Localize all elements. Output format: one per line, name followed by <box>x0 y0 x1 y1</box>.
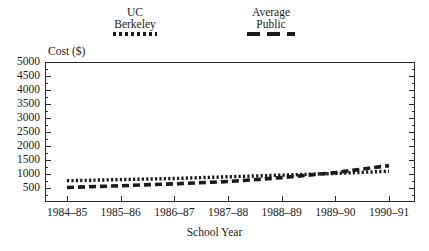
y-axis-minor-tick <box>45 181 48 182</box>
legend-label-average-public-line1: Average <box>228 6 314 18</box>
legend-item-average-public: Average Public <box>228 6 314 36</box>
y-axis-tick <box>45 90 51 91</box>
y-axis-label: 3500 <box>0 98 40 110</box>
legend-label-average-public-line2: Public <box>228 18 314 30</box>
y-axis-label: 3000 <box>0 112 40 124</box>
y-axis-tick <box>45 62 51 63</box>
y-axis-label: 4500 <box>0 70 40 82</box>
x-axis-tick <box>121 196 122 202</box>
y-axis-tick-right <box>409 104 415 105</box>
y-axis-minor-tick <box>45 97 48 98</box>
x-axis-tick <box>67 196 68 202</box>
y-axis-tick-right <box>409 76 415 77</box>
y-axis-minor-tick-right <box>412 153 415 154</box>
x-axis-tick <box>335 196 336 202</box>
y-axis-label: 2000 <box>0 140 40 152</box>
y-axis-tick <box>45 104 51 105</box>
x-axis-tick <box>174 196 175 202</box>
y-axis-minor-tick <box>45 125 48 126</box>
y-axis-label: 500 <box>0 182 40 194</box>
y-axis-tick-right <box>409 90 415 91</box>
y-axis-tick-right <box>409 132 415 133</box>
y-axis-tick <box>45 174 51 175</box>
legend-label-uc-berkeley-line2: Berkeley <box>92 18 178 30</box>
y-axis-minor-tick-right <box>412 181 415 182</box>
x-axis-tick <box>389 196 390 202</box>
legend-item-uc-berkeley: UC Berkeley <box>92 6 178 36</box>
x-axis-tick <box>282 196 283 202</box>
x-axis-tick <box>228 196 229 202</box>
y-axis-tick <box>45 132 51 133</box>
y-axis-minor-tick-right <box>412 167 415 168</box>
y-axis-tick <box>45 146 51 147</box>
y-axis-label: 1000 <box>0 168 40 180</box>
legend-label-uc-berkeley-line1: UC <box>92 6 178 18</box>
y-axis-tick <box>45 76 51 77</box>
y-axis-minor-tick <box>45 83 48 84</box>
y-axis-minor-tick-right <box>412 69 415 70</box>
y-axis-minor-tick-right <box>412 111 415 112</box>
y-axis-minor-tick-right <box>412 97 415 98</box>
y-axis-tick <box>45 160 51 161</box>
y-axis-tick-right <box>409 118 415 119</box>
y-axis-minor-tick <box>45 153 48 154</box>
y-axis-tick-right <box>409 160 415 161</box>
y-axis-tick-right <box>409 174 415 175</box>
y-axis-tick <box>45 188 51 189</box>
y-axis-label: 5000 <box>0 56 40 68</box>
x-axis-title: School Year <box>0 226 429 238</box>
chart-legend: UC Berkeley Average Public <box>0 6 429 48</box>
y-axis-minor-tick-right <box>412 83 415 84</box>
y-axis-minor-tick <box>45 139 48 140</box>
y-axis-minor-tick-right <box>412 195 415 196</box>
y-axis-label: 4000 <box>0 84 40 96</box>
plot-area <box>45 62 415 202</box>
y-axis-minor-tick <box>45 111 48 112</box>
x-axis-label: 1990–91 <box>354 206 424 218</box>
legend-swatch-dashed-icon <box>247 32 295 36</box>
cost-line-chart: UC Berkeley Average Public Cost ($) 5000… <box>0 0 429 251</box>
y-axis-minor-tick-right <box>412 139 415 140</box>
y-axis-tick-right <box>409 146 415 147</box>
y-axis-title: Cost ($) <box>48 45 85 57</box>
y-axis-minor-tick-right <box>412 125 415 126</box>
y-axis-minor-tick <box>45 167 48 168</box>
y-axis-tick-right <box>409 62 415 63</box>
y-axis-minor-tick <box>45 195 48 196</box>
y-axis-label: 1500 <box>0 154 40 166</box>
y-axis-label: 2500 <box>0 126 40 138</box>
y-axis-tick-right <box>409 188 415 189</box>
y-axis-minor-tick <box>45 69 48 70</box>
legend-swatch-dotted-icon <box>113 32 157 36</box>
y-axis-tick <box>45 118 51 119</box>
